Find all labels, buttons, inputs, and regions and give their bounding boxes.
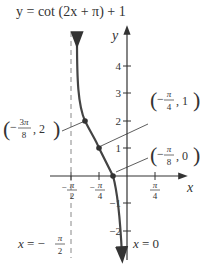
svg-text:π: π bbox=[58, 233, 63, 243]
y-axis-label: y bbox=[110, 28, 119, 43]
svg-text:): ) bbox=[53, 116, 60, 141]
svg-text:2: 2 bbox=[58, 246, 63, 256]
svg-text:π: π bbox=[167, 89, 172, 99]
svg-text:): ) bbox=[193, 142, 200, 167]
svg-text:8: 8 bbox=[22, 130, 27, 140]
svg-text:, 0: , 0 bbox=[176, 149, 188, 163]
svg-text:π: π bbox=[153, 180, 158, 190]
svg-text:, 1: , 1 bbox=[176, 94, 188, 108]
svg-text:x = −: x = − bbox=[17, 236, 45, 251]
svg-text:−: − bbox=[157, 147, 164, 161]
svg-text:4: 4 bbox=[167, 102, 172, 112]
svg-text:−: − bbox=[61, 182, 66, 192]
svg-text:π: π bbox=[98, 180, 103, 190]
svg-text:, 2: , 2 bbox=[33, 122, 45, 136]
svg-text:−: − bbox=[89, 182, 94, 192]
svg-text:4: 4 bbox=[153, 191, 158, 201]
x-axis-label: x bbox=[186, 180, 194, 195]
svg-text:x = 0: x = 0 bbox=[132, 236, 159, 251]
cotangent-graph: 4 3 2 1 −1 −2 −π2 −π4 π4 x y ( − 3π 8 , … bbox=[0, 0, 203, 269]
svg-text:8: 8 bbox=[167, 157, 172, 167]
svg-text:π: π bbox=[167, 144, 172, 154]
svg-text:3: 3 bbox=[116, 87, 122, 99]
svg-text:4: 4 bbox=[116, 60, 122, 72]
svg-text:2: 2 bbox=[70, 191, 75, 201]
svg-text:−: − bbox=[10, 120, 17, 134]
svg-text:1: 1 bbox=[116, 142, 122, 154]
svg-text:π: π bbox=[70, 180, 75, 190]
svg-text:): ) bbox=[193, 87, 200, 112]
svg-text:4: 4 bbox=[98, 191, 103, 201]
asymptote-labels: x = − π 2 x = 0 bbox=[17, 233, 159, 256]
svg-text:2: 2 bbox=[116, 115, 122, 127]
svg-text:−: − bbox=[157, 92, 164, 106]
svg-text:3π: 3π bbox=[19, 117, 29, 127]
